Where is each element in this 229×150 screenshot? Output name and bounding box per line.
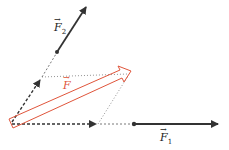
f2-label: →F2 [54, 22, 66, 36]
f1-label: →F1 [160, 132, 172, 146]
resultant-vector [9, 66, 131, 128]
resultant-label: →F [63, 80, 71, 91]
diagram-canvas [0, 0, 229, 150]
f1-vector [132, 122, 218, 126]
